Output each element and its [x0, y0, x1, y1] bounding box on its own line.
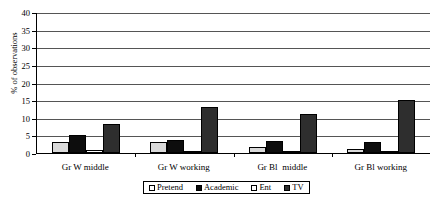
x-tick-mark [332, 153, 333, 157]
bar-academic [266, 141, 283, 153]
bar-pretend [150, 142, 167, 153]
bar-group [332, 13, 430, 153]
bar-academic [69, 135, 86, 153]
legend-label: Pretend [157, 183, 183, 192]
bar-pretend [249, 147, 266, 153]
y-tick-mark [32, 84, 36, 85]
x-tick-mark [234, 153, 235, 157]
x-axis-label: Gr W working [135, 162, 234, 172]
bar-pretend [347, 149, 364, 153]
legend-label: Ent [259, 183, 271, 192]
bar-group [37, 13, 135, 153]
bar-tv [103, 124, 120, 153]
bar-ent [86, 150, 103, 153]
bar-tv [398, 100, 415, 153]
legend-item-academic[interactable]: Academic [196, 183, 238, 192]
legend-label: TV [292, 183, 303, 192]
y-tick-mark [32, 66, 36, 67]
legend-item-ent[interactable]: Ent [251, 183, 271, 192]
bar-ent [283, 151, 300, 153]
x-axis-label: Gr Bl working [332, 162, 431, 172]
x-axis-label: Gr W middle [36, 162, 135, 172]
bar-academic [167, 140, 184, 153]
bar-tv [300, 114, 317, 153]
y-tick-label: 30 [6, 44, 30, 52]
y-tick-mark [32, 154, 36, 155]
y-tick-mark [32, 48, 36, 49]
y-tick-label: 5 [6, 132, 30, 140]
y-tick-label: 20 [6, 80, 30, 88]
bar-ent [381, 151, 398, 153]
bar-tv [201, 107, 218, 153]
bar-academic [364, 142, 381, 153]
legend-swatch-icon [251, 185, 257, 191]
bar-groups [37, 13, 430, 153]
y-tick-label: 40 [6, 9, 30, 17]
y-tick-label: 0 [6, 150, 30, 158]
y-tick-label: 15 [6, 97, 30, 105]
chart-legend: PretendAcademicEntTV [143, 181, 310, 194]
y-tick-label: 25 [6, 62, 30, 70]
x-axis-category-labels: Gr W middleGr W workingGr Bl middleGr Bl… [36, 162, 430, 172]
bar-pretend [52, 142, 69, 153]
legend-label: Academic [204, 183, 238, 192]
bar-chart: % of observations 0510152025303540 Gr W … [0, 0, 446, 209]
legend-swatch-icon [196, 185, 202, 191]
legend-item-pretend[interactable]: Pretend [149, 183, 183, 192]
bar-group [234, 13, 332, 153]
y-tick-label: 35 [6, 27, 30, 35]
x-tick-mark [135, 153, 136, 157]
legend-swatch-icon [284, 185, 290, 191]
y-tick-mark [32, 119, 36, 120]
y-tick-mark [32, 136, 36, 137]
y-tick-mark [32, 101, 36, 102]
x-axis-label: Gr Bl middle [233, 162, 332, 172]
y-tick-mark [32, 31, 36, 32]
bar-ent [184, 151, 201, 153]
bar-group [135, 13, 233, 153]
y-tick-label: 10 [6, 115, 30, 123]
legend-item-tv[interactable]: TV [284, 183, 303, 192]
plot-area [36, 13, 430, 154]
y-tick-mark [32, 13, 36, 14]
legend-swatch-icon [149, 185, 155, 191]
